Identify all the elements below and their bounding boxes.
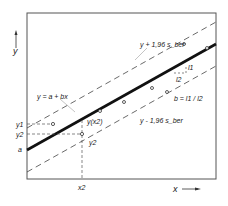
leader: [135, 48, 147, 60]
intercept-label: a: [18, 146, 22, 153]
upper-band-label: y + 1,96 s_ber: [139, 41, 185, 49]
data-point: [51, 122, 54, 125]
upper-confidence-line: [27, 22, 216, 128]
x-axis-label: x: [172, 184, 178, 194]
slope-l2-label: l2: [176, 76, 182, 83]
regression-diagram: y x y = a + bx y + 1,96 s_ber y - 1,96 s…: [0, 0, 228, 206]
y1-label: y1: [15, 121, 24, 129]
x2-label: x2: [77, 184, 86, 191]
y-axis-label: y: [12, 46, 18, 56]
leader: [60, 99, 75, 112]
data-point: [151, 87, 154, 90]
regression-equation: y = a + bx: [36, 93, 68, 101]
x-arrow-head: [195, 188, 201, 191]
lower-band-label: y - 1,96 s_ber: [139, 117, 183, 125]
data-point: [99, 110, 102, 113]
data-point: [206, 47, 209, 50]
lower-confidence-line: [27, 66, 216, 172]
slope-l1-label: l1: [188, 64, 194, 71]
data-point: [166, 91, 169, 94]
y2-axis-label: y2: [15, 131, 24, 139]
data-point: [123, 101, 126, 104]
data-point-x2: [80, 132, 83, 135]
slope-formula: b = l1 / l2: [174, 95, 203, 102]
y2-point-label: y2: [88, 139, 97, 147]
yx2-label: y(x2): [86, 118, 103, 126]
y-arrow-head: [15, 30, 18, 35]
